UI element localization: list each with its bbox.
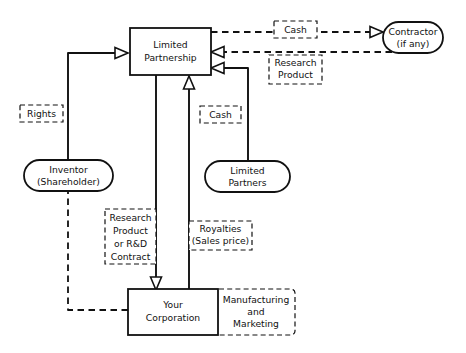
- edge-your-corporation-to-limited-partnership: [184, 76, 195, 291]
- node-label-line-2: Corporation: [146, 312, 200, 323]
- arrow-head-icon: [184, 76, 195, 89]
- node-label-line-1: Limited: [153, 39, 187, 50]
- node-label-line-1: Manufacturing: [223, 294, 290, 305]
- edge-label-line-2: Product: [113, 225, 148, 236]
- edge-label-line-3: or R&D: [114, 238, 147, 249]
- node-label-line-1: Your: [162, 299, 183, 310]
- edge-label-line-1: Research: [109, 212, 151, 223]
- edge-label-cash-to-contractor: Cash: [274, 21, 317, 38]
- node-manufacturing-and-marketing: Manufacturing and Marketing: [215, 289, 295, 335]
- node-limited-partnership: Limited Partnership: [130, 28, 211, 75]
- edge-label-text: Rights: [27, 108, 56, 119]
- node-label-line-2: and: [247, 306, 264, 317]
- node-label-line-2: Partnership: [144, 52, 197, 63]
- arrow-head-icon: [151, 277, 162, 290]
- edge-label-line-1: Royalties: [200, 223, 242, 234]
- node-label-line-1: Contractor: [389, 26, 438, 37]
- edge-label-line-2: (Sales price): [192, 235, 249, 246]
- node-inventor: Inventor (Shareholder): [24, 160, 113, 191]
- rd-limited-partnership-diagram: Manufacturing and Marketing Limited Part…: [0, 0, 466, 353]
- node-label-line-2: Partners: [228, 177, 266, 188]
- node-label-line-2: (if any): [397, 38, 430, 49]
- arrow-head-icon: [211, 63, 224, 74]
- edge-label-research-product-or-rd-contract: Research Product or R&D Contract: [105, 209, 156, 264]
- edge-label-line-1: Research: [274, 57, 316, 68]
- node-contractor: Contractor (if any): [383, 22, 443, 53]
- arrow-head-icon: [211, 47, 224, 58]
- edge-label-line-2: Product: [278, 69, 313, 80]
- arrow-head-icon: [115, 48, 128, 59]
- node-label-line-1: Inventor: [49, 164, 88, 175]
- edge-line: [68, 53, 115, 160]
- edge-label-royalties: Royalties (Sales price): [189, 221, 252, 250]
- node-label-line-3: Marketing: [233, 318, 279, 329]
- edge-label-rights: Rights: [20, 105, 63, 122]
- node-your-corporation: Your Corporation: [128, 289, 218, 335]
- node-label-line-2: (Shareholder): [37, 176, 100, 187]
- node-limited-partners: Limited Partners: [205, 161, 290, 192]
- node-label-line-1: Limited: [230, 165, 264, 176]
- edge-label-line-4: Contract: [111, 251, 151, 262]
- diagram-canvas: Manufacturing and Marketing Limited Part…: [0, 0, 466, 353]
- edge-label-text: Cash: [209, 109, 232, 120]
- edge-label-cash-from-partners: Cash: [200, 106, 241, 123]
- edge-inventor-to-limited-partnership: [68, 48, 128, 161]
- arrow-head-icon: [370, 27, 383, 38]
- edge-label-research-product: Research Product: [269, 55, 322, 84]
- edge-label-text: Cash: [284, 24, 307, 35]
